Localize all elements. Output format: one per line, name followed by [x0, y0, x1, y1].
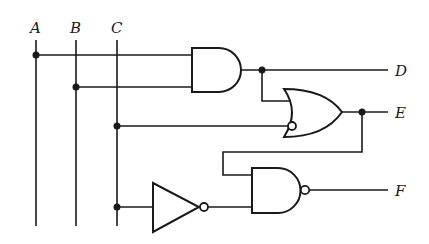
nand-gate — [252, 168, 301, 213]
input-label-c: C — [111, 19, 123, 37]
not-output-bubble — [200, 203, 208, 211]
nand-output-bubble — [301, 186, 309, 194]
logic-circuit-diagram: A B C D E F — [0, 0, 429, 244]
input-label-a: A — [28, 19, 41, 37]
and-gate — [192, 48, 241, 92]
output-label-f: F — [394, 182, 406, 200]
or-input-bubble — [288, 122, 296, 130]
not-gate — [153, 183, 199, 232]
input-label-b: B — [69, 19, 81, 37]
output-label-d: D — [394, 62, 407, 80]
output-label-e: E — [394, 104, 406, 122]
wire-d-to-or — [262, 70, 290, 101]
